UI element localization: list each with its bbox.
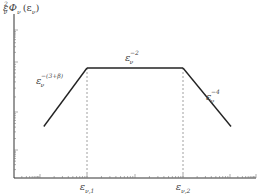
annotation-rising-slope: εν−(3+β)	[36, 72, 64, 88]
annotation-falling-slope: εν−4	[206, 88, 220, 104]
y-axis-label: εν2Φν(εν)	[3, 0, 39, 15]
y-axis-minor-ticks	[14, 30, 18, 170]
x-tick-label-2: εν,2	[176, 181, 191, 194]
annotation-flat-slope: εν−2	[125, 49, 139, 65]
x-tick-label-1: εν,1	[80, 181, 95, 194]
spectrum-chart: εν2Φν(εν) εν−(3+β) εν−2 εν−4 εν,1 εν,2	[0, 0, 258, 194]
x-axis-minor-ticks	[22, 174, 256, 178]
